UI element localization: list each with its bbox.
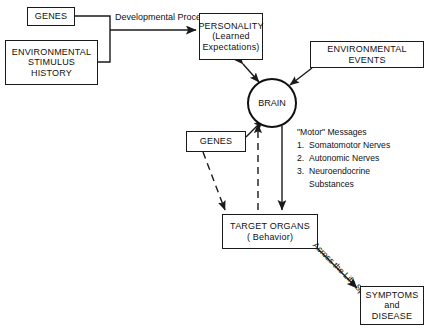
label-across-the-life-span-line-1: Across the xyxy=(311,240,347,276)
wire-env-events-to-brain xyxy=(290,68,312,85)
node-symptoms-line-2: and xyxy=(384,300,400,311)
motor-messages-heading: "Motor" Messages xyxy=(297,126,390,139)
node-genes-mid-line-1: GENES xyxy=(200,136,233,147)
node-personality-line-2: (Learned xyxy=(212,31,250,42)
motor-messages-item: 2.Autonomic Nerves xyxy=(297,152,390,165)
node-target-organs-line-2: ( Behavior) xyxy=(247,232,293,243)
node-symptoms-and-disease: SYMPTOMS and DISEASE xyxy=(360,286,424,325)
node-environmental-events-line-2: EVENTS xyxy=(348,55,385,66)
node-genes-mid: GENES xyxy=(186,131,246,152)
node-genes-top-line-1: GENES xyxy=(35,11,68,22)
motor-messages-item-continuation: Substances xyxy=(297,178,390,191)
label-developmental-processes-line-1: Developmental xyxy=(115,12,175,22)
node-symptoms-line-1: SYMPTOMS xyxy=(366,290,419,301)
motor-messages-item-number: 1. xyxy=(297,139,309,152)
node-symptoms-line-3: DISEASE xyxy=(372,311,412,322)
motor-messages-item-text: Substances xyxy=(309,179,354,189)
wire-genes-to-junction xyxy=(75,16,110,30)
node-target-organs-line-1: TARGET ORGANS xyxy=(230,221,310,232)
wire-genes-mid-to-target-organs xyxy=(203,152,225,210)
node-personality: PERSONALITY (Learned Expectations) xyxy=(199,13,263,60)
motor-messages-list: "Motor" Messages 1.Somatomotor Nerves 2.… xyxy=(297,126,390,190)
node-personality-line-1: PERSONALITY xyxy=(198,21,263,32)
motor-messages-item-number: 3. xyxy=(297,165,309,178)
node-target-organs: TARGET ORGANS ( Behavior) xyxy=(222,214,318,249)
node-brain: BRAIN xyxy=(247,78,297,128)
diagram-canvas: TARGET ORGANS --> BRAIN (feedback) --> G… xyxy=(0,0,428,330)
motor-messages-item: 1.Somatomotor Nerves xyxy=(297,139,390,152)
wire-personality-brain xyxy=(243,64,259,82)
node-environmental-stimulus-history: ENVIRONMENTAL STIMULUS HISTORY xyxy=(5,40,98,85)
motor-messages-item-text: Neuroendocrine xyxy=(309,166,370,176)
motor-messages-items: 1.Somatomotor Nerves 2.Autonomic Nerves … xyxy=(297,139,390,191)
node-environmental-events-line-1: ENVIRONMENTAL xyxy=(327,44,406,55)
motor-messages-item-number: 2. xyxy=(297,152,309,165)
node-env-history-line-3: HISTORY xyxy=(31,68,72,79)
node-brain-label: BRAIN xyxy=(258,98,286,108)
wire-env-history-to-junction xyxy=(97,30,110,62)
motor-messages-item-text: Somatomotor Nerves xyxy=(309,140,390,150)
node-env-history-line-2: STIMULUS xyxy=(28,57,75,68)
motor-messages-item: 3.Neuroendocrine xyxy=(297,165,390,178)
node-personality-line-3: Expectations) xyxy=(202,42,259,53)
node-env-history-line-1: ENVIRONMENTAL xyxy=(12,47,91,58)
node-genes-top: GENES xyxy=(27,7,75,26)
motor-messages-item-text: Autonomic Nerves xyxy=(309,153,379,163)
node-environmental-events: ENVIRONMENTAL EVENTS xyxy=(310,41,424,68)
